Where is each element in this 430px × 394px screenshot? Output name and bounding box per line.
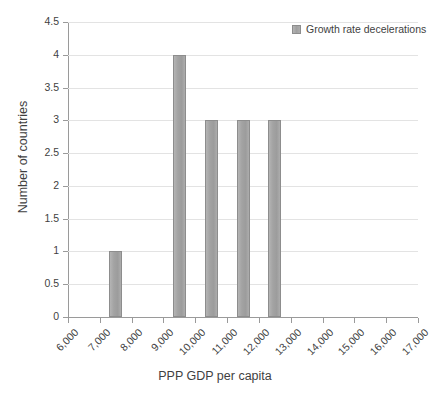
y-tick-mark [63,251,68,252]
x-tick-mark [323,318,324,323]
y-tick-mark [63,55,68,56]
bar [205,120,218,317]
plot-area [68,22,418,317]
y-tick-mark [63,22,68,23]
y-tick-label: 0 [53,310,59,322]
bar [268,120,281,317]
legend-label: Growth rate decelerations [306,23,426,35]
x-tick-mark [163,318,164,323]
x-tick-label: 13,000 [265,326,303,364]
x-tick-label: 6,000 [42,326,80,364]
x-tick-label: 12,000 [233,326,271,364]
legend-swatch-icon [292,25,301,34]
x-tick-label: 16,000 [360,326,398,364]
x-tick-label: 14,000 [297,326,335,364]
bar [109,251,122,317]
x-axis-title: PPP GDP per capita [0,369,430,383]
y-tick-label: 2 [53,179,59,191]
y-tick-label: 1 [53,244,59,256]
x-tick-mark [386,318,387,323]
gridline [68,55,418,56]
y-tick-label: 1.5 [44,212,59,224]
x-tick-mark [132,318,133,323]
x-tick-label: 15,000 [329,326,367,364]
y-tick-mark [63,120,68,121]
x-tick-mark [227,318,228,323]
bar-chart: 00.511.522.533.544.5 6,0007,0008,0009,00… [0,0,430,394]
x-tick-mark [259,318,260,323]
y-tick-label: 3 [53,113,59,125]
y-tick-label: 0.5 [44,277,59,289]
x-tick-label: 7,000 [74,326,112,364]
x-tick-mark [100,318,101,323]
bar [237,120,250,317]
x-tick-label: 11,000 [201,326,239,364]
x-tick-mark [291,318,292,323]
bar [173,55,186,317]
x-tick-label: 17,000 [392,326,430,364]
y-tick-label: 3.5 [44,81,59,93]
x-tick-mark [354,318,355,323]
y-tick-mark [63,284,68,285]
y-tick-label: 4.5 [44,15,59,27]
y-tick-label: 4 [53,48,59,60]
y-axis-title: Number of countries [16,37,30,277]
x-tick-label: 8,000 [106,326,144,364]
y-tick-mark [63,186,68,187]
y-tick-label: 2.5 [44,146,59,158]
chart-legend: Growth rate decelerations [292,23,426,35]
x-tick-mark [418,318,419,323]
x-tick-mark [68,318,69,323]
x-axis-line [68,317,418,318]
x-tick-label: 9,000 [138,326,176,364]
y-tick-mark [63,153,68,154]
x-tick-mark [195,318,196,323]
gridline [68,88,418,89]
y-tick-mark [63,88,68,89]
x-tick-label: 10,000 [170,326,208,364]
y-tick-mark [63,219,68,220]
